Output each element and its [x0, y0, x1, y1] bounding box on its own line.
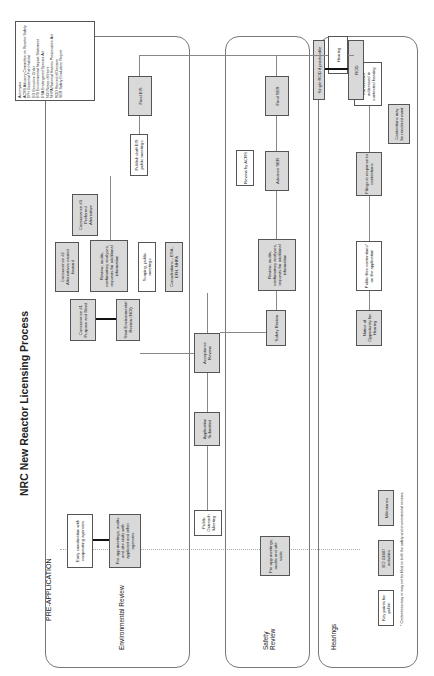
- box-review-env: Review, audits, confirmatory analyses, r…: [90, 240, 128, 292]
- box-advance-ser: Advance SER: [265, 151, 289, 191]
- connector: [220, 332, 266, 333]
- connector: [139, 56, 140, 76]
- box-contentions-moot: Contentions may be rendered moot: [388, 104, 410, 144]
- lane-label-environmental: Environmental Review: [118, 585, 125, 650]
- page-title: NRC New Reactor Licensing Process: [18, 311, 30, 496]
- connector-thick: [325, 68, 348, 70]
- box-concurrence-2: Concurrence #2 Alternatives carried forw…: [55, 242, 79, 292]
- box-public-files: Public files contentions* on the applica…: [356, 241, 382, 291]
- connector: [110, 176, 111, 240]
- box-consultations: Consultations – ESA, EFH, NHPA: [165, 242, 183, 292]
- box-review-safety: Review, audits, confirmatory analyses, r…: [258, 239, 296, 291]
- box-safety-review: Safety Review: [266, 310, 286, 346]
- connector: [139, 55, 328, 56]
- box-public-outreach: Public Outreach Meeting: [194, 510, 222, 536]
- connector: [207, 373, 208, 412]
- box-preapp-safety: Pre-app meetings, audits and site visits: [260, 536, 290, 576]
- connector: [276, 56, 277, 76]
- box-rod: ROD: [348, 40, 364, 100]
- connector: [369, 291, 370, 310]
- diagram-canvas: NRC New Reactor Licensing Process PRE-AP…: [0, 0, 434, 676]
- box-scoping: Scoping, public meetings: [138, 242, 156, 292]
- box-final-eis: Final EIS: [128, 76, 152, 116]
- box-notice-hearing: Notice of Opportunity for Hearing: [356, 310, 382, 346]
- acronym-item: SER Safety Evaluation Report: [59, 24, 64, 98]
- connector: [140, 353, 194, 354]
- box-concurrence-3: Concurrence #3 Preferred Alternative: [72, 194, 98, 236]
- connector: [207, 293, 208, 333]
- connector: [348, 55, 354, 56]
- connector: [369, 106, 370, 152]
- connector: [139, 116, 140, 134]
- box-review-acrs: Review by ACRS: [236, 150, 254, 186]
- legend-eo-activities: EO 13807 activities: [378, 540, 394, 576]
- box-start-env-review: Start Environmental Review (NOI): [116, 299, 140, 341]
- box-filings: Filings in response to contentions: [356, 152, 382, 196]
- box-concurrence-1: Concurrence #1 Purpose and Need: [70, 299, 96, 341]
- connector: [276, 116, 277, 151]
- connector-thick: [96, 318, 116, 320]
- connector-thick: [93, 539, 109, 541]
- box-application-submitted: Application Submitted: [194, 412, 220, 446]
- box-single-rod: Single ROD if practicable: [313, 40, 325, 100]
- box-final-ser: Final SER: [265, 76, 289, 116]
- connector: [207, 446, 208, 510]
- lane-label-safety: Safety Review: [262, 620, 276, 650]
- box-preapp-env: Pre-app meetings, audits and site visits…: [109, 514, 141, 568]
- legend-milestones: Milestones: [378, 490, 394, 526]
- connector: [369, 196, 370, 241]
- lane-environmental: [45, 36, 190, 668]
- lane-label-hearings: Hearings: [330, 624, 337, 650]
- connector: [276, 191, 277, 239]
- acronyms-legend: Acronyms ACRS Advisory Committee on Reac…: [15, 21, 95, 101]
- legend-key-points: Key points for public: [378, 590, 394, 626]
- connector: [276, 291, 277, 310]
- box-draft-eis: Publish draft EIS public meetings: [130, 134, 148, 176]
- box-early-coordination: Early coordination with cooperating agen…: [67, 514, 93, 568]
- footnote: * Contentions may or may not be filed on…: [400, 466, 404, 626]
- box-acceptance-review: Acceptance Review: [194, 333, 220, 373]
